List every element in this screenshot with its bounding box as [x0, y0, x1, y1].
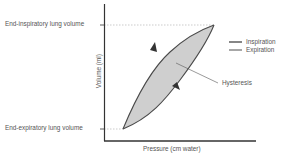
y-tick-label-end-expiratory: End-expiratory lung volume	[5, 125, 83, 131]
hysteresis-loop-area	[123, 25, 214, 129]
legend-label-inspiration: Inspiration	[246, 39, 276, 45]
y-axis-label: Volume (ml)	[96, 51, 102, 91]
y-tick-label-end-inspiratory: End-inspiratory lung volume	[5, 21, 84, 27]
expiration-arrow-icon	[150, 42, 157, 52]
legend-label-expiration: Expiration	[246, 47, 274, 53]
x-axis-label: Pressure (cm water)	[143, 146, 201, 152]
hysteresis-annotation: Hysteresis	[222, 80, 252, 86]
